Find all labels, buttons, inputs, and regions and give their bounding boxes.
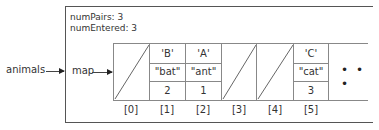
entry-value: "ant" [186,63,221,82]
num-pairs-field: numPairs: 3 [70,12,123,23]
index-label: [2] [185,104,221,115]
entry-count: 3 [294,81,328,100]
index-label: [3] [221,104,257,115]
array-cell-entry: 'C' "cat" 3 [293,44,329,100]
map-arrow-icon [92,72,112,73]
num-entered-field: numEntered: 3 [70,23,137,34]
null-slash-icon [257,44,294,100]
hash-array: 'B' "bat" 2 'A' "ant" 1 'C' "cat" 3 • • … [113,43,368,101]
index-label: [0] [113,104,149,115]
array-cell-null [221,44,256,100]
array-cell-null [113,44,149,100]
entry-value: "cat" [294,63,328,82]
entry-value: "bat" [150,63,185,82]
entry-count: 1 [186,81,221,100]
animals-variable-label: animals [6,64,45,75]
entry-key: 'A' [186,44,221,64]
index-label: [4] [257,104,293,115]
animals-arrow-icon [46,71,64,72]
map-field-label: map [72,65,94,76]
entry-count: 2 [150,81,185,100]
index-label: [1] [149,104,185,115]
index-label: [5] [293,104,329,115]
array-cell-entry: 'B' "bat" 2 [149,44,185,100]
null-slash-icon [114,44,150,100]
array-cell-null [256,44,293,100]
entry-key: 'C' [294,44,328,64]
null-slash-icon [222,44,257,100]
entry-key: 'B' [150,44,185,64]
continuation-ellipsis: • • • [341,63,368,91]
array-cell-entry: 'A' "ant" 1 [185,44,221,100]
